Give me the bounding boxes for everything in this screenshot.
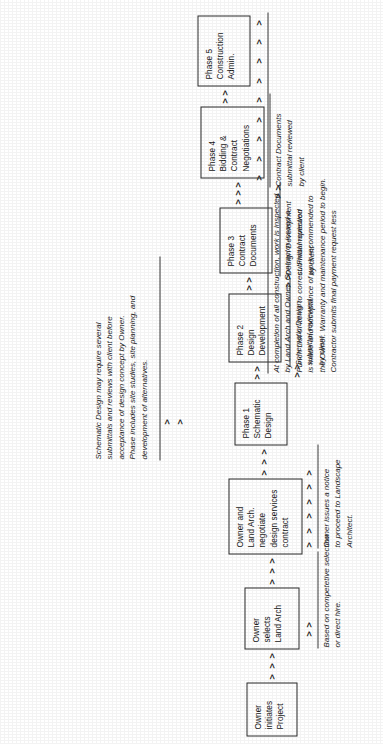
chevron-right-icon: > bbox=[267, 673, 276, 679]
chevron-right-icon: > bbox=[267, 578, 276, 584]
box-line: Phase 5 bbox=[203, 22, 214, 79]
box-line: Schematic bbox=[251, 389, 262, 438]
chevron-down-icon: > bbox=[254, 77, 263, 83]
chevron-down-icon: > bbox=[254, 155, 263, 161]
note-notice-to-proceed: Owner issues a notice to proceed to Land… bbox=[320, 459, 354, 547]
arrow-run-phase4-to-phase5: > > bbox=[219, 88, 230, 104]
box-line: Contract bbox=[228, 113, 239, 171]
chevron-right-icon: > bbox=[233, 181, 242, 187]
box-line: Phase 4 bbox=[206, 113, 217, 171]
note-line: Phase includes site studies, site planni… bbox=[126, 295, 137, 459]
box-line: Documents bbox=[247, 214, 258, 266]
note-line: or direct hire. bbox=[331, 534, 342, 647]
box-line: Design bbox=[245, 300, 256, 355]
box-line: Phase 3 bbox=[225, 214, 236, 266]
arrow-run-phase3-to-phase4: > > > bbox=[232, 180, 243, 205]
box-phase-1-schematic-design: Phase 1 Schematic Design bbox=[234, 382, 287, 445]
note-line: Owner issues a notice bbox=[320, 459, 331, 547]
note-schematic-design-detail: Schematic Design may require several sub… bbox=[92, 295, 149, 459]
box-phase-3-contract-documents: Phase 3 Contract Documents bbox=[219, 207, 272, 273]
box-line: Design bbox=[262, 389, 273, 438]
arrow-run-closeout-feedback: > > > > > > > > > bbox=[253, 18, 264, 181]
note-rule-notice-to-proceed bbox=[317, 444, 318, 548]
chevron-down-icon: > bbox=[304, 498, 313, 504]
chevron-down-icon: > bbox=[304, 541, 313, 547]
note-line: Based on competetive selection bbox=[320, 534, 331, 647]
note-cd-review: Contract Documents submittal reviewed by… bbox=[272, 113, 306, 186]
note-line: to proceed to Landscape bbox=[331, 459, 342, 547]
arrow-run-phase2-to-phase3: > > bbox=[243, 275, 254, 291]
box-line: Owner bbox=[252, 689, 263, 729]
page-canvas-wrapper: Owner initiates Project > > > Owner sele… bbox=[0, 0, 383, 744]
arrow-run-selection-feedback: > > bbox=[303, 620, 314, 637]
note-rule-selection-basis bbox=[317, 551, 318, 648]
chevron-right-icon: > bbox=[220, 89, 229, 95]
chevron-right-icon: > bbox=[233, 189, 242, 195]
note-closeout: At completion of all construction, work … bbox=[270, 178, 338, 372]
box-line: design services bbox=[268, 485, 279, 547]
note-line: acceptance of design concept by Owner. bbox=[115, 295, 126, 459]
arrow-run-phase1-to-phase2: > > bbox=[251, 364, 262, 380]
box-line: negotiate bbox=[256, 485, 267, 547]
chevron-down-icon: > bbox=[254, 174, 263, 180]
chevron-right-icon: > bbox=[252, 373, 261, 379]
box-line: Admin. bbox=[225, 22, 236, 79]
note-line: Contractor submits final payment request… bbox=[327, 178, 338, 372]
box-line: Contract bbox=[236, 214, 247, 266]
note-line: Schematic Design may require several bbox=[92, 295, 103, 459]
chevron-right-icon: > bbox=[220, 97, 229, 103]
box-line: Development bbox=[256, 300, 267, 355]
box-line: Construction bbox=[214, 22, 225, 79]
note-line: development of alternatives. bbox=[138, 295, 149, 459]
box-line: selects bbox=[261, 594, 272, 642]
note-selection-basis: Based on competetive selection or direct… bbox=[320, 534, 343, 647]
chevron-right-icon: > bbox=[259, 458, 268, 464]
note-rule-closeout bbox=[267, 12, 268, 373]
note-rule-cd-review bbox=[269, 93, 270, 187]
box-line: Land Arch bbox=[272, 594, 283, 642]
chevron-right-icon: > bbox=[259, 448, 268, 454]
chevron-down-icon: > bbox=[254, 116, 263, 122]
box-line: Owner and bbox=[234, 485, 245, 547]
box-line: Owner bbox=[250, 594, 261, 642]
note-line: At completion of all construction, work … bbox=[270, 178, 281, 372]
chevron-right-icon: > bbox=[267, 557, 276, 563]
note-line: the Owner. Warranty and maintenance peri… bbox=[316, 178, 327, 372]
chevron-down-icon: > bbox=[175, 418, 184, 424]
note-line: submittal reviewed bbox=[283, 113, 294, 186]
chevron-down-icon: > bbox=[254, 38, 263, 44]
chevron-right-icon: > bbox=[252, 365, 261, 371]
chevron-down-icon: > bbox=[254, 96, 263, 102]
arrow-run-negotiate-to-phase1: > > > bbox=[258, 447, 269, 476]
box-phase-5-construction-admin: Phase 5 Construction Admin. bbox=[197, 15, 250, 86]
box-line: Negotiations bbox=[240, 113, 251, 171]
box-line: Phase 2 bbox=[234, 300, 245, 355]
box-line: initiates bbox=[263, 689, 274, 729]
chevron-right-icon: > bbox=[267, 652, 276, 658]
chevron-down-icon: > bbox=[304, 469, 313, 475]
chevron-right-icon: > bbox=[267, 567, 276, 573]
chevron-down-icon: > bbox=[304, 621, 313, 627]
arrow-run-notice-feedback: > > > > > > bbox=[303, 468, 314, 548]
note-rule-schematic-detail bbox=[159, 256, 160, 460]
chevron-right-icon: > bbox=[267, 662, 276, 668]
chevron-down-icon: > bbox=[162, 418, 171, 424]
box-line: Bidding & bbox=[217, 113, 228, 171]
chevron-right-icon: > bbox=[244, 284, 253, 290]
box-line: Project bbox=[274, 689, 285, 729]
note-line: by client bbox=[295, 113, 306, 186]
box-line: Land Arch. bbox=[245, 485, 256, 547]
chevron-down-icon: > bbox=[254, 135, 263, 141]
note-line: by Land Arch and Owner. Contractor issue… bbox=[281, 178, 292, 372]
box-owner-initiates-project: Owner initiates Project bbox=[246, 682, 297, 736]
note-line: submittals and reviews with client befor… bbox=[103, 295, 114, 459]
arrow-run-schematic-detail-pointer: > > bbox=[162, 416, 184, 426]
chevron-right-icon: > bbox=[233, 198, 242, 204]
arrow-run-initiates-to-selects: > > > bbox=[266, 651, 277, 680]
box-negotiate-design-services-contract: Owner and Land Arch. negotiate design se… bbox=[228, 478, 302, 554]
chevron-down-icon: > bbox=[304, 630, 313, 636]
chevron-right-icon: > bbox=[259, 469, 268, 475]
note-line: Punch List of items to correct. Final in… bbox=[293, 178, 304, 372]
box-owner-selects-land-arch: Owner selects Land Arch bbox=[244, 587, 299, 649]
note-line: Architect. bbox=[343, 459, 354, 547]
